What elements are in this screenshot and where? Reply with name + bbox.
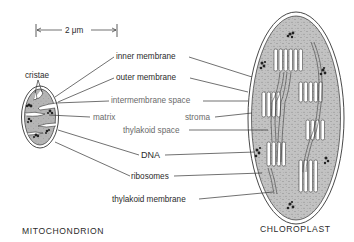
label-thylakoid-space: thylakoid space — [123, 126, 180, 135]
label-cristae: cristae — [25, 71, 50, 80]
title-mitochondrion: MITOCHONDRION — [22, 226, 104, 236]
scale-bar-label: 2 μm — [65, 26, 84, 35]
label-ribosomes: ribosomes — [131, 172, 169, 181]
label-thylakoid-membrane: thylakoid membrane — [112, 195, 186, 204]
mitochondrion — [22, 86, 59, 148]
label-dna: DNA — [141, 150, 160, 160]
chloroplast — [248, 12, 344, 224]
organelle-diagram: 2 μm — [0, 0, 354, 242]
scale-bar: 2 μm — [36, 24, 117, 37]
title-chloroplast: CHLOROPLAST — [260, 224, 331, 234]
label-intermembrane-space: intermembrane space — [111, 96, 191, 105]
label-matrix: matrix — [93, 113, 115, 122]
label-outer-membrane: outer membrane — [116, 73, 177, 82]
label-stroma: stroma — [185, 113, 210, 122]
label-inner-membrane: inner membrane — [116, 52, 176, 61]
